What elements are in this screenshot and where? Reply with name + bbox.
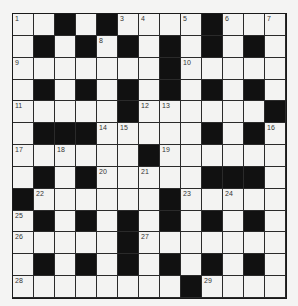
grid-cell[interactable]	[223, 101, 244, 123]
grid-cell[interactable]	[55, 254, 76, 276]
grid-cell[interactable]	[139, 80, 160, 102]
grid-cell[interactable]	[34, 14, 55, 36]
grid-cell[interactable]	[34, 58, 55, 80]
grid-cell[interactable]	[76, 14, 97, 36]
grid-cell[interactable]	[55, 276, 76, 298]
grid-cell[interactable]	[265, 58, 286, 80]
grid-cell[interactable]	[76, 276, 97, 298]
grid-cell[interactable]: 12	[139, 101, 160, 123]
grid-cell[interactable]	[265, 211, 286, 233]
grid-cell[interactable]	[13, 123, 34, 145]
grid-cell[interactable]	[76, 145, 97, 167]
grid-cell[interactable]	[265, 167, 286, 189]
grid-cell[interactable]	[55, 36, 76, 58]
grid-cell[interactable]	[202, 58, 223, 80]
grid-cell[interactable]: 22	[34, 189, 55, 211]
grid-cell[interactable]: 8	[97, 36, 118, 58]
grid-cell[interactable]	[181, 232, 202, 254]
grid-cell[interactable]	[97, 58, 118, 80]
grid-cell[interactable]	[97, 211, 118, 233]
grid-cell[interactable]	[118, 189, 139, 211]
grid-cell[interactable]	[160, 14, 181, 36]
grid-cell[interactable]	[244, 189, 265, 211]
grid-cell[interactable]: 20	[97, 167, 118, 189]
grid-cell[interactable]: 19	[160, 145, 181, 167]
grid-cell[interactable]	[181, 167, 202, 189]
grid-cell[interactable]	[76, 232, 97, 254]
grid-cell[interactable]	[118, 145, 139, 167]
grid-cell[interactable]	[34, 145, 55, 167]
grid-cell[interactable]	[244, 276, 265, 298]
grid-cell[interactable]	[139, 211, 160, 233]
grid-cell[interactable]: 13	[160, 101, 181, 123]
grid-cell[interactable]: 5	[181, 14, 202, 36]
grid-cell[interactable]: 1	[13, 14, 34, 36]
grid-cell[interactable]	[97, 232, 118, 254]
grid-cell[interactable]: 26	[13, 232, 34, 254]
grid-cell[interactable]	[265, 36, 286, 58]
grid-cell[interactable]: 7	[265, 14, 286, 36]
grid-cell[interactable]	[181, 80, 202, 102]
grid-cell[interactable]	[118, 167, 139, 189]
grid-cell[interactable]: 16	[265, 123, 286, 145]
grid-cell[interactable]: 10	[181, 58, 202, 80]
grid-cell[interactable]: 17	[13, 145, 34, 167]
grid-cell[interactable]	[118, 58, 139, 80]
grid-cell[interactable]: 18	[55, 145, 76, 167]
grid-cell[interactable]: 23	[181, 189, 202, 211]
grid-cell[interactable]: 27	[139, 232, 160, 254]
grid-cell[interactable]	[97, 80, 118, 102]
grid-cell[interactable]	[139, 123, 160, 145]
grid-cell[interactable]	[76, 189, 97, 211]
grid-cell[interactable]	[139, 254, 160, 276]
grid-cell[interactable]	[181, 101, 202, 123]
grid-cell[interactable]: 21	[139, 167, 160, 189]
grid-cell[interactable]	[265, 254, 286, 276]
grid-cell[interactable]: 28	[13, 276, 34, 298]
grid-cell[interactable]	[244, 14, 265, 36]
grid-cell[interactable]	[223, 211, 244, 233]
grid-cell[interactable]	[223, 276, 244, 298]
grid-cell[interactable]	[160, 276, 181, 298]
grid-cell[interactable]	[97, 189, 118, 211]
grid-cell[interactable]	[13, 80, 34, 102]
grid-cell[interactable]	[118, 276, 139, 298]
grid-cell[interactable]	[265, 232, 286, 254]
grid-cell[interactable]	[55, 189, 76, 211]
grid-cell[interactable]	[244, 101, 265, 123]
grid-cell[interactable]	[34, 232, 55, 254]
grid-cell[interactable]: 3	[118, 14, 139, 36]
grid-cell[interactable]	[265, 189, 286, 211]
grid-cell[interactable]	[13, 167, 34, 189]
grid-cell[interactable]	[139, 36, 160, 58]
grid-cell[interactable]	[202, 101, 223, 123]
grid-cell[interactable]	[55, 167, 76, 189]
grid-cell[interactable]	[139, 58, 160, 80]
grid-cell[interactable]	[55, 58, 76, 80]
grid-cell[interactable]	[181, 36, 202, 58]
grid-cell[interactable]	[97, 145, 118, 167]
grid-cell[interactable]	[244, 58, 265, 80]
grid-cell[interactable]	[160, 123, 181, 145]
grid-cell[interactable]	[223, 58, 244, 80]
grid-cell[interactable]	[55, 101, 76, 123]
grid-cell[interactable]	[223, 123, 244, 145]
grid-cell[interactable]	[97, 101, 118, 123]
grid-cell[interactable]: 25	[13, 211, 34, 233]
grid-cell[interactable]	[202, 145, 223, 167]
grid-cell[interactable]	[160, 232, 181, 254]
grid-cell[interactable]	[181, 123, 202, 145]
grid-cell[interactable]: 15	[118, 123, 139, 145]
grid-cell[interactable]	[181, 211, 202, 233]
grid-cell[interactable]	[223, 145, 244, 167]
grid-cell[interactable]: 24	[223, 189, 244, 211]
grid-cell[interactable]	[55, 80, 76, 102]
grid-cell[interactable]	[181, 145, 202, 167]
grid-cell[interactable]	[97, 276, 118, 298]
grid-cell[interactable]	[181, 254, 202, 276]
grid-cell[interactable]	[202, 232, 223, 254]
grid-cell[interactable]	[223, 80, 244, 102]
grid-cell[interactable]	[202, 189, 223, 211]
grid-cell[interactable]: 9	[13, 58, 34, 80]
grid-cell[interactable]	[244, 145, 265, 167]
